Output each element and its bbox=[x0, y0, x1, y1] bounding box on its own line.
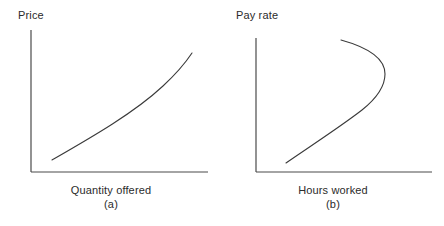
panel-b: Pay rate Hours worked (b) bbox=[222, 0, 444, 226]
panel-b-caption: Hours worked (b) bbox=[222, 184, 444, 211]
panel-b-supply-curve bbox=[286, 40, 385, 163]
panel-a-caption: Quantity offered (a) bbox=[0, 184, 222, 211]
figure-container: Price Quantity offered (a) Pay rate Hour… bbox=[0, 0, 444, 226]
panel-a: Price Quantity offered (a) bbox=[0, 0, 222, 226]
panel-a-x-axis-label: Quantity offered bbox=[0, 184, 222, 198]
panel-a-tag: (a) bbox=[0, 198, 222, 212]
panel-b-x-axis-label: Hours worked bbox=[222, 184, 444, 198]
panel-b-tag: (b) bbox=[222, 198, 444, 212]
panel-a-supply-curve bbox=[52, 53, 192, 160]
